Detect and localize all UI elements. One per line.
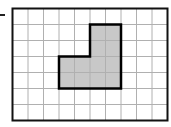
- grid-diagram: [0, 0, 171, 127]
